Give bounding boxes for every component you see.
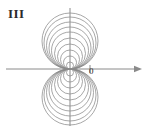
- origin-label: 0: [89, 66, 94, 76]
- figure-panel: III 0: [0, 0, 147, 130]
- axes-group: [6, 8, 142, 126]
- panel-label: III: [8, 6, 25, 22]
- x-axis-arrowhead: [134, 66, 142, 72]
